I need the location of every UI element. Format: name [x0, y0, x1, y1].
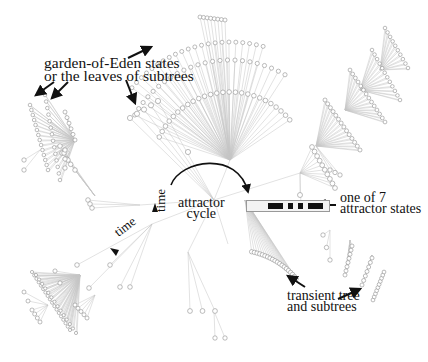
arrow-goe-to-left-tree-2: [52, 82, 68, 98]
attractor-state-cell-on: [308, 203, 313, 209]
basin-of-attraction-diagram: garden-of-Eden states or the leaves of s…: [0, 0, 428, 362]
transient-tree-label-line2: and subtrees: [287, 301, 360, 312]
attractor-state-cell-on: [288, 203, 293, 209]
garden-of-eden-label-line2: or the leaves of subtrees: [44, 70, 194, 83]
attractor-state-cell-on: [273, 203, 278, 209]
garden-of-eden-label: garden-of-Eden states or the leaves of s…: [44, 57, 194, 82]
time-arrowhead-diagonal: [110, 248, 119, 256]
attractor-state-cell-on: [318, 203, 323, 209]
attractor-state-label: one of 7 attractor states: [340, 192, 421, 215]
time-label-vertical: time: [156, 189, 167, 212]
attractor-state-label-line2: attractor states: [340, 203, 421, 214]
attractor-state-cell-on: [268, 203, 273, 209]
attractor-state-cell-on: [313, 203, 318, 209]
attractor-state-cell-on: [278, 203, 283, 209]
attractor-cycle-label-line2: cycle: [178, 208, 225, 219]
attractor-state-pattern: [246, 200, 330, 212]
attractor-state-cell-on: [298, 203, 303, 209]
attractor-cycle-arc: [171, 163, 248, 192]
attractor-cycle-label: attractor cycle: [178, 197, 225, 220]
transient-tree-label: transient tree and subtrees: [287, 290, 360, 313]
